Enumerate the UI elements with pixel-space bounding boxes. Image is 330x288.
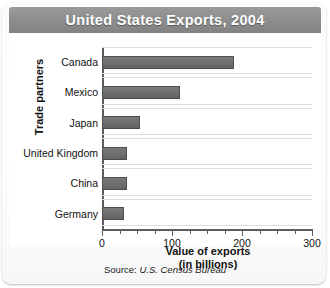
x-tick-minor — [295, 230, 296, 234]
x-tick-minor — [260, 230, 261, 234]
x-tick-minor — [120, 230, 121, 234]
x-tick-minor — [190, 230, 191, 234]
x-axis-title-line1: Value of exports — [102, 245, 314, 258]
bar[interactable] — [102, 147, 127, 160]
bar-row[interactable]: Germany — [102, 199, 312, 229]
plot-area: CanadaMexicoJapanUnited KingdomChinaGerm… — [102, 47, 312, 229]
x-tick-major — [312, 230, 313, 236]
source-note-text: U.S. Census Bureau — [139, 264, 226, 275]
x-tick-minor — [137, 230, 138, 234]
source-note: Source: U.S. Census Bureau — [9, 264, 321, 275]
category-label: Japan — [69, 108, 98, 138]
bar-row[interactable]: Japan — [102, 108, 312, 138]
x-tick-major — [242, 230, 243, 236]
page-title: United States Exports, 2004 — [65, 12, 264, 28]
category-label: Canada — [61, 47, 98, 77]
bar-row[interactable]: Canada — [102, 47, 312, 77]
bar[interactable] — [102, 177, 127, 190]
bar-row[interactable]: China — [102, 168, 312, 198]
bar[interactable] — [102, 56, 234, 69]
x-tick-minor — [155, 230, 156, 234]
category-label: Mexico — [65, 77, 98, 107]
category-label: Germany — [55, 199, 98, 229]
chart-plot-frame: Trade partners CanadaMexicoJapanUnited K… — [9, 33, 321, 247]
x-tick-major — [172, 230, 173, 236]
bar-row[interactable]: United Kingdom — [102, 138, 312, 168]
bar[interactable] — [102, 207, 124, 220]
chart-title-bar: United States Exports, 2004 — [9, 7, 321, 33]
source-note-prefix: Source: — [104, 264, 137, 275]
chart-card: United States Exports, 2004 Trade partne… — [2, 2, 326, 284]
x-tick-minor — [207, 230, 208, 234]
bar[interactable] — [102, 86, 180, 99]
bar[interactable] — [102, 116, 140, 129]
x-tick-minor — [277, 230, 278, 234]
category-label: China — [71, 168, 98, 198]
x-tick-minor — [225, 230, 226, 234]
bar-row[interactable]: Mexico — [102, 77, 312, 107]
category-label: United Kingdom — [23, 138, 98, 168]
x-tick-major — [102, 230, 103, 236]
